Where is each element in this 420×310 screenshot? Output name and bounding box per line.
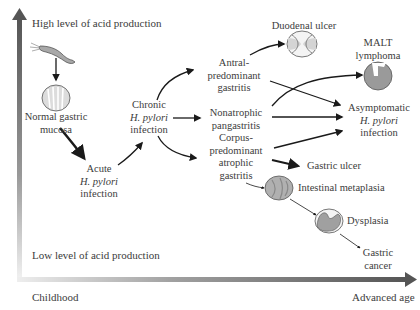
node-acute-infection: Acute H. pylori infection xyxy=(74,163,124,201)
node-nonatrophic-pangastritis: Nonatrophic pangastritis xyxy=(198,107,274,132)
node-cancer-line2: cancer xyxy=(356,260,400,273)
arrow-chronic-to-antral xyxy=(157,70,193,100)
arrow-dysplasia-to-cancer xyxy=(340,234,360,248)
x-axis-start-label: Childhood xyxy=(32,291,78,304)
node-malt-lymphoma: MALT lymphoma xyxy=(352,37,404,62)
arrow-corpus-to-asymptomatic xyxy=(274,131,342,148)
node-malt-line1: MALT xyxy=(352,37,404,50)
arrow-corpus-to-metaplasia xyxy=(246,183,264,188)
node-chronic-line2: H. pylori xyxy=(124,112,174,125)
node-corpus-line3: atrophic xyxy=(198,157,274,170)
arrow-corpus-to-gastric-ulcer xyxy=(272,160,298,166)
arrow-chronic-to-corpus xyxy=(158,136,196,158)
node-acute-line3: infection xyxy=(74,188,124,201)
dysplasia-icon xyxy=(315,209,343,233)
node-gastric-cancer: Gastric cancer xyxy=(356,247,400,272)
normal-mucosa-icon xyxy=(42,85,70,111)
arrow-acute-to-chronic xyxy=(118,143,142,165)
node-nonatrophic-line1: Nonatrophic xyxy=(198,107,274,120)
malt-lymphoma-icon xyxy=(364,62,392,90)
node-normal-line2: mucosa xyxy=(18,124,94,137)
node-acute-line2: H. pylori xyxy=(74,176,124,189)
node-antral-line1: Antral- xyxy=(198,57,270,70)
node-corpus-line2: predominant xyxy=(198,145,274,158)
node-malt-line2: lymphoma xyxy=(352,50,404,63)
bacterium-icon xyxy=(30,43,75,64)
node-cancer-line1: Gastric xyxy=(356,247,400,260)
node-asymptomatic-line2: H. pylori xyxy=(346,115,412,128)
arrow-antral-to-asymptomatic xyxy=(270,81,340,105)
y-axis-arrow xyxy=(12,8,27,280)
node-chronic-infection: Chronic H. pylori infection xyxy=(124,99,174,137)
node-antral-line3: gastritis xyxy=(198,82,270,95)
node-acute-line1: Acute xyxy=(74,163,124,176)
node-antral-predominant-gastritis: Antral- predominant gastritis xyxy=(198,57,270,95)
node-nonatrophic-line2: pangastritis xyxy=(198,120,274,133)
node-chronic-line3: infection xyxy=(124,124,174,137)
node-chronic-line1: Chronic xyxy=(124,99,174,112)
node-asymptomatic-line3: infection xyxy=(346,127,412,140)
node-intestinal-metaplasia: Intestinal metaplasia xyxy=(298,182,385,195)
node-normal-gastric-mucosa: Normal gastric mucosa xyxy=(18,111,94,136)
node-asymptomatic-infection: Asymptomatic H. pylori infection xyxy=(346,102,412,140)
x-axis-arrow xyxy=(17,272,417,287)
node-asymptomatic-line1: Asymptomatic xyxy=(346,102,412,115)
node-gastric-ulcer: Gastric ulcer xyxy=(307,160,361,173)
duodenal-ulcer-icon xyxy=(287,31,317,57)
arrow-metaplasia-to-dysplasia xyxy=(290,199,316,215)
node-normal-line1: Normal gastric xyxy=(18,111,94,124)
node-corpus-line4: gastritis xyxy=(198,170,274,183)
y-axis-low-label: Low level of acid production xyxy=(32,249,160,262)
node-duodenal-ulcer: Duodenal ulcer xyxy=(270,20,338,33)
node-antral-line2: predominant xyxy=(198,70,270,83)
node-corpus-line1: Corpus- xyxy=(198,132,274,145)
node-corpus-predominant-atrophic-gastritis: Corpus- predominant atrophic gastritis xyxy=(198,132,274,182)
x-axis-end-label: Advanced age xyxy=(352,291,415,304)
arrow-antral-to-duodenal xyxy=(250,44,284,55)
y-axis-high-label: High level of acid production xyxy=(32,17,162,30)
node-dysplasia: Dysplasia xyxy=(347,215,388,228)
